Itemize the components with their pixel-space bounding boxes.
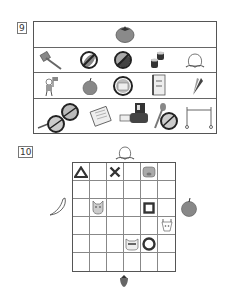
question-10-grid [72, 162, 176, 272]
grid-cell [107, 181, 124, 199]
grid-cell [73, 199, 90, 217]
notebook-icon [152, 74, 166, 96]
pig-icon [142, 166, 156, 178]
ball-crossed-icon [113, 50, 133, 70]
grid-cell [141, 253, 158, 271]
grid-cell [73, 181, 90, 199]
grid-cell [141, 163, 158, 181]
hurdle-tape-icon [183, 104, 215, 130]
grid-cell [107, 163, 124, 181]
grid-cell [141, 235, 158, 253]
banana-left-icon [48, 196, 68, 218]
grid-cell [73, 163, 90, 181]
peach-icon [184, 51, 206, 71]
grid-cell [158, 217, 175, 235]
child-with-flag-icon [40, 75, 60, 97]
calendar-icon [89, 106, 113, 128]
grid-cell [73, 253, 90, 271]
grid-cell [158, 163, 175, 181]
grid-cell [90, 199, 107, 217]
grid-cell [90, 163, 107, 181]
grid-cell [158, 235, 175, 253]
axe-icon [39, 51, 63, 71]
tomato-icon [115, 25, 135, 43]
giraffe-icon [160, 218, 174, 233]
dog-icon [92, 200, 104, 215]
raccoon-icon [125, 237, 139, 251]
grid-cell [158, 253, 175, 271]
spoon-and-bowl-crossed-icon [152, 102, 180, 132]
grid-cell [90, 217, 107, 235]
grid-cell [107, 253, 124, 271]
grid-cell [124, 235, 141, 253]
cross-icon [109, 166, 121, 178]
grid-cell [107, 199, 124, 217]
grid-cell [158, 181, 175, 199]
grid-cell [90, 253, 107, 271]
bulldozer-icon [118, 101, 150, 127]
grid-cell [90, 235, 107, 253]
strawberry-bottom-icon [118, 274, 129, 288]
apple-icon [81, 78, 99, 95]
grid-cell [141, 217, 158, 235]
grid-cell [73, 217, 90, 235]
grid-cell [124, 181, 141, 199]
grid-cell [124, 163, 141, 181]
square-icon [143, 202, 155, 214]
question-number-10: 10 [18, 146, 33, 158]
question-number-9: 9 [17, 22, 27, 34]
grid-cell [141, 199, 158, 217]
peach-top-icon [115, 145, 135, 162]
eggplant-crossed-icon [79, 50, 99, 70]
row-divider [34, 98, 216, 99]
grid-cell [107, 235, 124, 253]
row-divider [34, 47, 216, 48]
cake-crossed-icon [112, 75, 134, 97]
apple-right-icon [180, 198, 198, 217]
question-9-picture-table [33, 21, 217, 134]
sushi-rolls-icon [149, 51, 167, 71]
grid-cell [73, 235, 90, 253]
grid-cell [124, 217, 141, 235]
row-divider [34, 72, 216, 73]
grid-cell [107, 217, 124, 235]
grid-cell [158, 199, 175, 217]
grid-cell [141, 181, 158, 199]
pan-and-clock-crossed-icon [36, 102, 86, 134]
carrot-icon [188, 75, 204, 97]
grid-cell [90, 181, 107, 199]
triangle-icon [74, 166, 88, 178]
circle-icon [142, 237, 156, 251]
grid-cell [124, 199, 141, 217]
grid-cell [124, 253, 141, 271]
